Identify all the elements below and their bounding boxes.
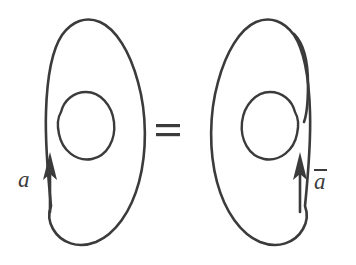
left-knot-label-text: a bbox=[18, 167, 30, 192]
right-outer-loop-path bbox=[211, 20, 310, 245]
left-knot-label: a bbox=[18, 168, 30, 191]
equals-bar-top bbox=[156, 124, 180, 127]
right-knot-label-overbar-wrap: a bbox=[314, 168, 326, 193]
knot-diagram-canvas bbox=[0, 0, 356, 265]
right-knot-label: a bbox=[314, 168, 326, 193]
left-knot-group bbox=[43, 20, 145, 245]
right-knot-label-text: a bbox=[314, 169, 326, 194]
left-outer-loop-path bbox=[46, 20, 145, 245]
equals-sign bbox=[156, 124, 180, 136]
right-knot-group bbox=[211, 20, 310, 245]
knot-equivalence-diagram: a a bbox=[0, 0, 356, 265]
left-inner-spiral-path bbox=[58, 92, 114, 159]
right-inner-spiral-path bbox=[242, 92, 298, 159]
equals-bar-bottom bbox=[156, 133, 180, 136]
overbar-glyph bbox=[314, 169, 327, 171]
right-hook-strand-path bbox=[294, 34, 308, 122]
